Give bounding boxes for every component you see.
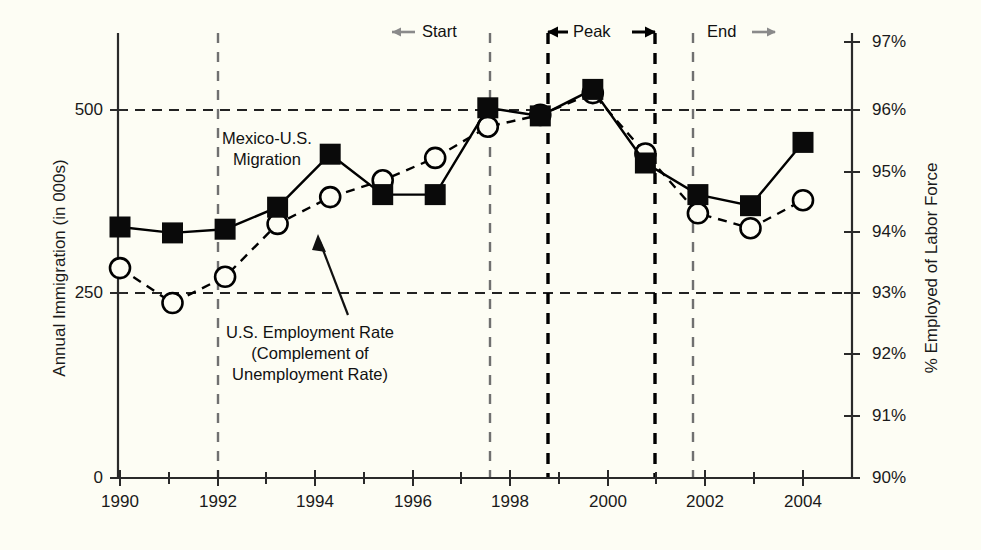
migration-marker-1998 — [477, 97, 498, 118]
band-arrows — [392, 27, 776, 38]
employment-marker-1992 — [163, 293, 183, 313]
employment-marker-2004 — [793, 190, 813, 210]
start-arrow-head-icon — [392, 28, 401, 37]
callout-line — [320, 242, 348, 315]
migration-marker-1991 — [110, 217, 131, 238]
migration-marker-2004 — [793, 132, 814, 153]
end-arrow-head-icon — [767, 28, 776, 37]
migration-marker-1996 — [372, 184, 393, 205]
migration-marker-1995 — [320, 144, 341, 165]
callout-arrowhead-icon — [312, 234, 326, 252]
chart-container: Annual Immigration (in 000s) % Employed … — [0, 0, 981, 550]
vertical-reference-lines — [218, 33, 693, 478]
migration-marker-2000 — [582, 79, 603, 100]
migration-marker-1997 — [425, 184, 446, 205]
employment-marker-1991 — [110, 258, 130, 278]
employment-callout-leader — [312, 234, 348, 315]
migration-marker-1992 — [162, 222, 183, 243]
migration-marker-1999 — [530, 105, 551, 126]
migration-marker-2001 — [635, 153, 656, 174]
migration-marker-1993 — [215, 219, 236, 240]
series-mexico-us-migration — [110, 79, 814, 244]
migration-marker-1994 — [267, 197, 288, 218]
employment-marker-1993 — [215, 267, 235, 287]
employment-marker-2002 — [688, 203, 708, 223]
migration-marker-2003 — [740, 195, 761, 216]
employment-marker-2003 — [741, 218, 761, 238]
employment-marker-1997 — [425, 148, 445, 168]
chart-svg — [0, 0, 981, 550]
employment-marker-1995 — [320, 187, 340, 207]
migration-marker-2002 — [687, 184, 708, 205]
